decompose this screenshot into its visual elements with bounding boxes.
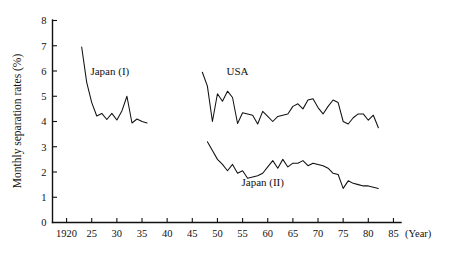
x-tick-label-55: 55 bbox=[237, 228, 248, 239]
x-tick-label-50: 50 bbox=[212, 228, 223, 239]
tick-marks bbox=[53, 21, 394, 223]
series-line-japan-i bbox=[82, 47, 147, 123]
x-tick-label-25: 25 bbox=[86, 228, 97, 239]
y-tick-label-2: 2 bbox=[41, 167, 46, 178]
figure-container: 192025303540455055606570758085 012345678… bbox=[0, 0, 452, 255]
x-tick-label-1920: 1920 bbox=[56, 228, 77, 239]
x-tick-label-40: 40 bbox=[162, 228, 173, 239]
y-tick-label-3: 3 bbox=[41, 142, 46, 153]
y-axis-label: Monthly separation rates (%) bbox=[11, 54, 24, 189]
x-tick-label-65: 65 bbox=[288, 228, 299, 239]
series-annotations: Japan (I)USAJapan (II) bbox=[90, 65, 284, 189]
axis-titles: Monthly separation rates (%)(Year) bbox=[11, 54, 432, 240]
y-tick-label-6: 6 bbox=[41, 66, 46, 77]
y-tick-label-5: 5 bbox=[41, 91, 46, 102]
line-chart: 192025303540455055606570758085 012345678… bbox=[0, 0, 452, 255]
y-tick-label-0: 0 bbox=[41, 217, 46, 228]
y-axis-tick-labels: 012345678 bbox=[41, 15, 47, 228]
japan-i-label: Japan (I) bbox=[90, 65, 129, 78]
x-tick-label-30: 30 bbox=[112, 228, 123, 239]
x-axis-tick-labels: 192025303540455055606570758085 bbox=[56, 228, 399, 239]
x-tick-label-35: 35 bbox=[137, 228, 148, 239]
x-tick-label-70: 70 bbox=[313, 228, 324, 239]
japan-ii-label: Japan (II) bbox=[241, 176, 284, 189]
y-tick-label-8: 8 bbox=[41, 15, 46, 26]
x-tick-label-80: 80 bbox=[363, 228, 374, 239]
y-tick-label-4: 4 bbox=[41, 116, 47, 127]
y-tick-label-1: 1 bbox=[41, 192, 46, 203]
x-axis-unit-label: (Year) bbox=[405, 228, 432, 240]
x-tick-label-60: 60 bbox=[262, 228, 273, 239]
x-tick-label-45: 45 bbox=[187, 228, 198, 239]
series-line-japan-ii bbox=[207, 142, 378, 189]
usa-label: USA bbox=[227, 65, 249, 77]
y-tick-label-7: 7 bbox=[41, 41, 46, 52]
axes bbox=[53, 20, 402, 223]
series-line-usa bbox=[202, 72, 378, 128]
x-tick-label-85: 85 bbox=[388, 228, 399, 239]
x-tick-label-75: 75 bbox=[338, 228, 349, 239]
